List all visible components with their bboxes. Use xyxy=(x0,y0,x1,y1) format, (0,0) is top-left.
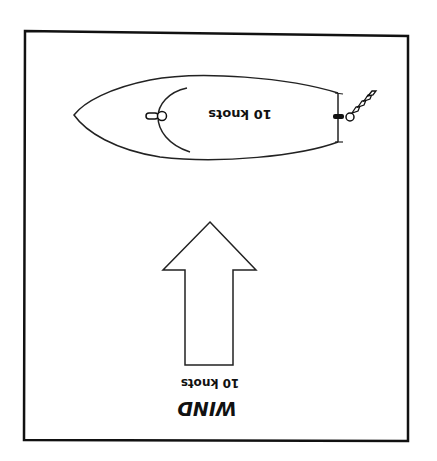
wind-arrow-icon xyxy=(163,222,256,365)
wind-boat-diagram: 10 knots 10 knots WIND xyxy=(0,0,437,461)
anchor-chain-icon xyxy=(333,91,376,121)
boat-hull xyxy=(74,76,338,160)
wind-speed-label: 10 knots xyxy=(181,376,240,390)
boat-speed-label: 10 knots xyxy=(208,107,272,122)
mast-icon xyxy=(146,112,167,121)
boat: 10 knots xyxy=(74,76,376,160)
wind-title: WIND xyxy=(177,398,237,420)
